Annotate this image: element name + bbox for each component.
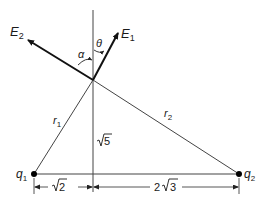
- r1-line: [34, 80, 93, 174]
- height-label: 5: [97, 134, 112, 147]
- dist-left-label: 2: [52, 179, 67, 193]
- diagram-canvas: E2 E1 α θ r1 r2 q1 q2 5 2 2 3: [0, 0, 265, 210]
- diagram-svg: E2 E1 α θ r1 r2 q1 q2 5 2 2 3: [0, 0, 265, 210]
- svg-text:5: 5: [104, 135, 110, 147]
- dist-right-label: 2 3: [154, 179, 178, 193]
- svg-text:3: 3: [170, 181, 176, 193]
- theta-label: θ: [96, 37, 102, 49]
- e1-label: E1: [121, 26, 135, 43]
- q2-label: q2: [244, 167, 256, 183]
- q2-charge: [236, 171, 242, 177]
- alpha-arc: [78, 59, 92, 65]
- theta-arc: [94, 50, 104, 52]
- e2-vector: [28, 40, 93, 80]
- q1-label: q1: [16, 167, 28, 183]
- svg-text:2: 2: [154, 181, 160, 193]
- r2-line: [93, 80, 239, 174]
- e2-label: E2: [10, 24, 24, 41]
- r1-label: r1: [53, 114, 62, 129]
- r2-label: r2: [164, 107, 173, 122]
- q1-charge: [31, 171, 37, 177]
- alpha-label: α: [78, 48, 85, 60]
- svg-text:2: 2: [59, 181, 65, 193]
